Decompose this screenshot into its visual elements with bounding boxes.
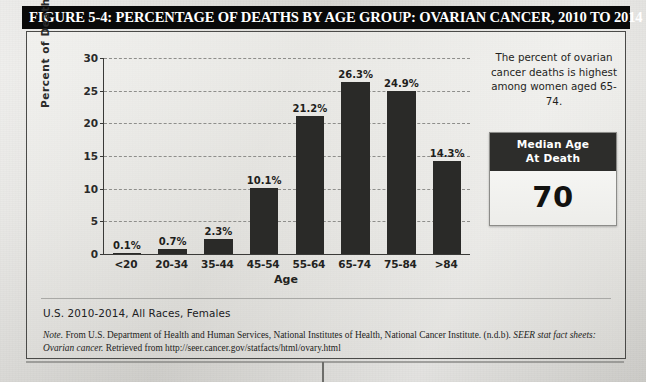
bar: 0.1%	[113, 253, 141, 254]
figure-title-bar: FIGURE 5-4: PERCENTAGE OF DEATHS BY AGE …	[22, 6, 630, 29]
y-axis-label: Percent of Deaths	[39, 0, 51, 108]
median-age-label-line1: Median Age	[517, 138, 589, 150]
figure-note: Note. From U.S. Department of Health and…	[43, 329, 617, 354]
bar-value-label: 2.3%	[204, 226, 232, 237]
y-tick-label: 0	[91, 248, 98, 260]
bar: 14.3%	[433, 161, 461, 254]
bar-cell: 2.3%	[196, 58, 242, 254]
x-tick-label: 75-84	[378, 258, 424, 270]
x-tick-label: 45-54	[240, 258, 286, 270]
bar-value-label: 14.3%	[430, 148, 465, 159]
median-age-value: 70	[490, 171, 616, 225]
bar-series: 0.1%0.7%2.3%10.1%21.2%26.3%24.9%14.3%	[104, 58, 470, 254]
x-tick-label: >84	[423, 258, 469, 270]
bar-value-label: 0.1%	[113, 240, 141, 251]
bar-cell: 10.1%	[241, 58, 287, 254]
bar-value-label: 24.9%	[384, 78, 419, 89]
bar: 24.9%	[387, 91, 415, 254]
median-age-label-line2: At Death	[526, 152, 580, 164]
plot-area: 051015202530 0.1%0.7%2.3%10.1%21.2%26.3%…	[103, 58, 470, 255]
note-text-part1: From U.S. Department of Health and Human…	[63, 330, 513, 340]
page-bottom-divider-tick	[322, 362, 324, 382]
x-axis-ticks: <2020-3435-4445-5455-6465-7475-84>84	[103, 258, 469, 270]
y-tick-label: 15	[83, 150, 98, 162]
median-age-card: Median Age At Death 70	[489, 132, 617, 226]
note-prefix: Note.	[43, 330, 63, 340]
x-tick-label: 20-34	[149, 258, 195, 270]
bar-cell: 0.7%	[150, 58, 196, 254]
bar: 10.1%	[250, 188, 278, 254]
bar: 2.3%	[204, 239, 232, 254]
bar-cell: 24.9%	[379, 58, 425, 254]
bar-value-label: 26.3%	[338, 69, 373, 80]
callout-text: The percent of ovarian cancer deaths is …	[489, 50, 619, 108]
bar: 21.2%	[296, 116, 324, 255]
bar-value-label: 0.7%	[159, 236, 187, 247]
y-tick-label: 5	[91, 215, 98, 227]
note-text-part2: Retrieved from http://seer.cancer.gov/st…	[103, 343, 340, 353]
bar: 26.3%	[341, 82, 369, 254]
side-panel: The percent of ovarian cancer deaths is …	[489, 50, 619, 226]
bar-value-label: 21.2%	[293, 103, 328, 114]
bar-value-label: 10.1%	[247, 175, 282, 186]
bar-cell: 14.3%	[424, 58, 470, 254]
y-tick-label: 10	[83, 183, 98, 195]
page-bottom-rule	[26, 361, 624, 363]
x-tick-label: 65-74	[332, 258, 378, 270]
x-axis-label: Age	[103, 273, 469, 286]
figure-title: FIGURE 5-4: PERCENTAGE OF DEATHS BY AGE …	[22, 9, 643, 26]
bar: 0.7%	[158, 249, 186, 254]
bar-cell: 26.3%	[333, 58, 379, 254]
footer-divider	[41, 298, 611, 299]
median-age-card-header: Median Age At Death	[490, 133, 616, 171]
y-tick-label: 20	[83, 117, 98, 129]
source-line: U.S. 2010-2014, All Races, Females	[43, 307, 230, 319]
x-tick-label: <20	[103, 258, 149, 270]
x-tick-label: 35-44	[195, 258, 241, 270]
y-tick-label: 30	[83, 52, 98, 64]
x-tick-label: 55-64	[286, 258, 332, 270]
figure-content-box: Percent of Deaths 051015202530 0.1%0.7%2…	[26, 31, 626, 359]
bar-chart: Percent of Deaths 051015202530 0.1%0.7%2…	[53, 46, 483, 308]
y-tick-label: 25	[83, 85, 98, 97]
bar-cell: 21.2%	[287, 58, 333, 254]
y-tick-mark	[100, 254, 104, 255]
bar-cell: 0.1%	[104, 58, 150, 254]
